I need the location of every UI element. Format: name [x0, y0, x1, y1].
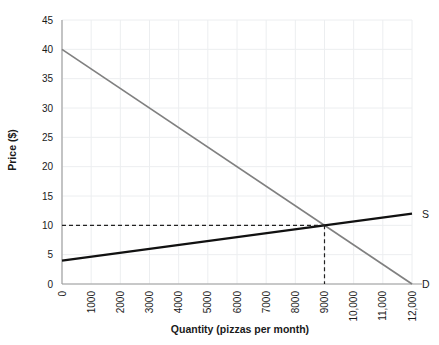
x-tick-label: 6000 — [232, 291, 243, 314]
y-tick-label: 25 — [42, 132, 54, 143]
x-axis-title: Quantity (pizzas per month) — [171, 323, 309, 335]
x-tick-labels-group: 010002000300040005000600070008000900010,… — [57, 291, 418, 322]
x-tick-label: 3000 — [144, 291, 155, 314]
y-tick-label: 10 — [42, 220, 54, 231]
y-tick-label: 45 — [42, 15, 54, 26]
x-tick-label: 12,000 — [407, 291, 418, 322]
y-tick-label: 35 — [42, 73, 54, 84]
x-tick-label: 4000 — [173, 291, 184, 314]
x-tick-label: 2000 — [115, 291, 126, 314]
gridlines-group — [62, 20, 412, 284]
y-tick-label: 30 — [42, 103, 54, 114]
y-tick-label: 40 — [42, 44, 54, 55]
x-tick-label: 7000 — [261, 291, 272, 314]
curve-label-s: S — [422, 208, 429, 220]
y-tick-label: 20 — [42, 161, 54, 172]
curve-labels-group: DS — [422, 208, 430, 290]
chart-svg: 051015202530354045 010002000300040005000… — [0, 0, 439, 345]
x-tick-label: 0 — [57, 291, 68, 297]
x-tick-label: 8000 — [290, 291, 301, 314]
y-tick-label: 15 — [42, 191, 54, 202]
axes-group — [62, 20, 422, 284]
x-tick-label: 11,000 — [377, 291, 388, 321]
x-tick-label: 1000 — [86, 291, 97, 314]
x-tick-label: 9000 — [319, 291, 330, 314]
x-tick-label: 5000 — [202, 291, 213, 314]
curve-label-d: D — [422, 278, 430, 290]
y-tick-label: 0 — [47, 279, 53, 290]
y-tick-labels-group: 051015202530354045 — [42, 15, 54, 290]
x-tick-label: 10,000 — [348, 291, 359, 322]
y-axis-title: Price ($) — [6, 129, 18, 170]
supply-demand-chart: 051015202530354045 010002000300040005000… — [0, 0, 439, 345]
y-tick-label: 5 — [47, 249, 53, 260]
